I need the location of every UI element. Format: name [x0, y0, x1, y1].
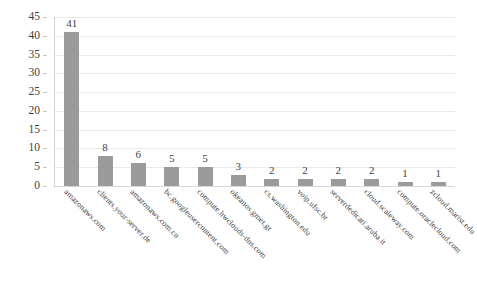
bar-group[interactable]: 1	[431, 17, 446, 186]
gridline-0	[55, 186, 455, 187]
y-tick-label-5: 5	[34, 161, 40, 173]
bar-value-label: 5	[202, 153, 208, 164]
gridline-5	[55, 167, 455, 168]
gridline-15	[55, 130, 455, 131]
gridline-35	[55, 55, 455, 56]
y-tick-mark-40	[43, 36, 47, 37]
bar[interactable]	[298, 179, 313, 187]
plot-area: 4186553222211	[55, 17, 455, 186]
bar-value-label: 1	[436, 168, 442, 179]
y-tick-label-0: 0	[34, 180, 40, 192]
y-tick-mark-0	[43, 186, 47, 187]
y-tick-label-40: 40	[29, 30, 41, 42]
y-tick-label-25: 25	[29, 86, 41, 98]
bar-value-label: 1	[402, 168, 408, 179]
bar-value-label: 41	[66, 18, 77, 29]
bar[interactable]	[198, 167, 213, 186]
y-tick-mark-25	[43, 92, 47, 93]
y-tick-label-15: 15	[29, 124, 41, 136]
bar[interactable]	[264, 179, 279, 187]
gridline-40	[55, 36, 455, 37]
bar-group[interactable]: 41	[64, 17, 79, 186]
y-tick-mark-5	[43, 167, 47, 168]
y-tick-label-45: 45	[29, 11, 41, 23]
bar-group[interactable]: 2	[298, 17, 313, 186]
bar-group[interactable]: 8	[98, 17, 113, 186]
y-tick-label-20: 20	[29, 105, 41, 117]
x-axis-labels: amazonaws.comclients.your-server.deamazo…	[55, 188, 455, 290]
y-axis: 051015202530354045	[0, 0, 55, 290]
bar[interactable]	[331, 179, 346, 187]
gridline-30	[55, 73, 455, 74]
y-tick-mark-45	[43, 17, 47, 18]
y-tick-mark-35	[43, 55, 47, 56]
gridline-20	[55, 111, 455, 112]
bar-value-label: 5	[169, 153, 175, 164]
bar[interactable]	[364, 179, 379, 187]
bar-group[interactable]: 2	[331, 17, 346, 186]
y-tick-mark-15	[43, 130, 47, 131]
x-tick-label: compute.oraclecloud.com	[395, 188, 462, 255]
bar-value-label: 8	[102, 142, 108, 153]
gridline-25	[55, 92, 455, 93]
bar[interactable]	[98, 156, 113, 186]
bar-group[interactable]: 2	[264, 17, 279, 186]
bar-value-label: 2	[336, 165, 342, 176]
bar[interactable]	[131, 163, 146, 186]
bar[interactable]	[398, 182, 413, 186]
y-tick-mark-30	[43, 73, 47, 74]
bar-value-label: 2	[369, 165, 375, 176]
x-tick-label: bc.googleusercontent.com	[162, 188, 230, 256]
bar-group[interactable]: 2	[364, 17, 379, 186]
bar-value-label: 6	[136, 149, 142, 160]
gridline-45	[55, 17, 455, 18]
y-tick-label-35: 35	[29, 49, 41, 61]
bar[interactable]	[431, 182, 446, 186]
bar-group[interactable]: 6	[131, 17, 146, 186]
x-tick-label: voip.ufsc.br	[295, 188, 329, 222]
y-tick-mark-20	[43, 111, 47, 112]
bar-value-label: 3	[236, 161, 242, 172]
bar-value-label: 2	[302, 165, 308, 176]
y-tick-label-30: 30	[29, 68, 41, 80]
y-tick-mark-10	[43, 148, 47, 149]
bar[interactable]	[64, 32, 79, 186]
bar[interactable]	[231, 175, 246, 186]
bar-group[interactable]: 5	[198, 17, 213, 186]
bar-group[interactable]: 5	[164, 17, 179, 186]
y-tick-label-10: 10	[29, 143, 41, 155]
gridline-10	[55, 148, 455, 149]
bar-value-label: 2	[269, 165, 275, 176]
bar-group[interactable]: 1	[398, 17, 413, 186]
bar[interactable]	[164, 167, 179, 186]
bar-group[interactable]: 3	[231, 17, 246, 186]
